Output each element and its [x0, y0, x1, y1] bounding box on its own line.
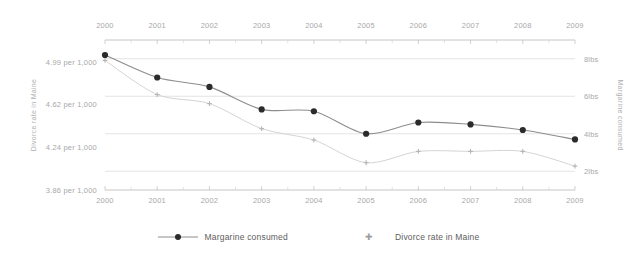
x-axis-top-tick-2002: 2002 [201, 21, 219, 30]
x-axis-bottom-tick-2004: 2004 [305, 196, 323, 205]
series-markers [102, 52, 578, 169]
x-axis-top-tick-2004: 2004 [305, 21, 323, 30]
x-axis-bottom-tick-2003: 2003 [253, 196, 271, 205]
axis-ticks [105, 40, 575, 190]
y-axis-left-tick-3: 3.86 per 1,000 [46, 186, 97, 195]
legend-label-divorce: Divorce rate in Maine [395, 232, 480, 242]
legend-item-margarine: Margarine consumed [158, 232, 288, 242]
legend-marker-cross-icon: ✚ [348, 232, 388, 242]
x-axis-top-tick-2007: 2007 [462, 21, 480, 30]
x-axis-top-tick-2005: 2005 [357, 21, 375, 30]
spurious-correlation-chart: 2000200120022003200420052006200720082009… [0, 0, 637, 261]
y-axis-right-tick-0: 8lbs [584, 54, 599, 63]
x-axis-bottom-tick-2007: 2007 [462, 196, 480, 205]
x-axis-top-tick-2003: 2003 [253, 21, 271, 30]
legend-label-margarine: Margarine consumed [205, 232, 288, 242]
x-axis-bottom-tick-2005: 2005 [357, 196, 375, 205]
y-axis-right-tick-1: 6lbs [584, 92, 599, 101]
y-axis-left-tick-1: 4.62 per 1,000 [46, 99, 97, 108]
x-axis-bottom-tick-2008: 2008 [514, 196, 532, 205]
x-axis-top-tick-2000: 2000 [96, 21, 114, 30]
x-axis-top-tick-2001: 2001 [148, 21, 166, 30]
x-axis-bottom-tick-2006: 2006 [410, 196, 428, 205]
left-axis-title: Divorce rate in Maine [30, 79, 37, 151]
x-axis-top-tick-2006: 2006 [410, 21, 428, 30]
x-axis-top-tick-2008: 2008 [514, 21, 532, 30]
gridlines [105, 59, 575, 172]
y-axis-left-tick-2: 4.24 per 1,000 [46, 142, 97, 151]
series-lines [105, 55, 575, 166]
x-axis-bottom-tick-2000: 2000 [96, 196, 114, 205]
legend-item-divorce: ✚ Divorce rate in Maine [348, 232, 480, 242]
chart-legend: Margarine consumed ✚ Divorce rate in Mai… [0, 232, 637, 242]
y-axis-right-tick-3: 2lbs [584, 167, 599, 176]
x-axis-bottom-tick-2009: 2009 [566, 196, 584, 205]
right-axis-title: Margarine consumed [617, 79, 624, 150]
x-axis-bottom-tick-2001: 2001 [148, 196, 166, 205]
x-axis-top-tick-2009: 2009 [566, 21, 584, 30]
x-axis-bottom-tick-2002: 2002 [201, 196, 219, 205]
y-axis-right-tick-2: 4lbs [584, 129, 599, 138]
chart-canvas [0, 0, 637, 261]
legend-marker-circle-icon [158, 232, 198, 242]
axis-lines [105, 40, 575, 190]
y-axis-left-tick-0: 4.99 per 1,000 [46, 57, 97, 66]
